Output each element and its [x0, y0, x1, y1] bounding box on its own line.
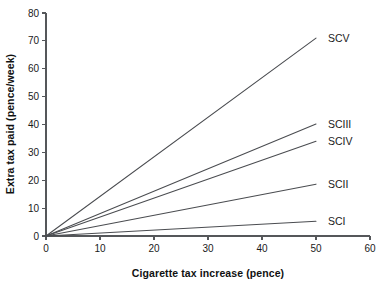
y-tick-label: 10 — [28, 203, 40, 214]
line-chart: 01020304050607080 0102030405060 SCVSCIII… — [0, 0, 384, 285]
y-axis-title: Extra tax paid (pence/week) — [4, 54, 16, 194]
y-tick-label: 80 — [28, 8, 40, 19]
series-label: SCII — [328, 178, 348, 190]
y-tick-label: 60 — [28, 63, 40, 74]
y-tick-label: 40 — [28, 119, 40, 130]
chart-figure: 01020304050607080 0102030405060 SCVSCIII… — [0, 0, 384, 285]
series-label: SCI — [328, 215, 346, 227]
x-tick-label: 20 — [148, 243, 160, 254]
x-tick-label: 0 — [43, 243, 49, 254]
x-tick-label: 10 — [94, 243, 106, 254]
y-tick-label: 50 — [28, 91, 40, 102]
x-tick-label: 60 — [364, 243, 376, 254]
y-tick-label: 20 — [28, 175, 40, 186]
x-tick-label: 30 — [202, 243, 214, 254]
x-tick-label: 50 — [310, 243, 322, 254]
y-tick-label: 30 — [28, 147, 40, 158]
y-tick-label: 0 — [33, 231, 39, 242]
series-label: SCIII — [328, 118, 351, 130]
chart-background — [0, 0, 384, 285]
series-label: SCIV — [328, 135, 353, 147]
y-tick-label: 70 — [28, 35, 40, 46]
series-label: SCV — [328, 32, 350, 44]
x-axis-title: Cigarette tax increase (pence) — [132, 267, 284, 279]
x-tick-label: 40 — [256, 243, 268, 254]
